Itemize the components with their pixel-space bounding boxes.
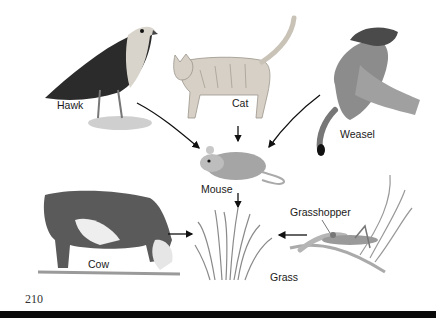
grass-illustration xyxy=(195,208,272,280)
grass-label: Grass xyxy=(270,271,298,283)
grasshopper-illustration xyxy=(290,175,412,272)
food-web-diagram: Hawk Cat Weasel Mouse Cow Grass Grasshop… xyxy=(0,0,436,318)
hawk-label: Hawk xyxy=(57,99,83,111)
cow-label: Cow xyxy=(88,258,109,270)
bottom-border xyxy=(0,311,436,318)
hawk-illustration xyxy=(45,27,158,130)
diagram-artwork xyxy=(0,0,436,318)
mouse-label: Mouse xyxy=(201,183,233,195)
mouse-illustration xyxy=(200,146,284,184)
cat-label: Cat xyxy=(232,97,248,109)
arrow-weasel-to-mouse xyxy=(269,95,320,147)
weasel-label: Weasel xyxy=(340,128,375,140)
page-number: 210 xyxy=(25,292,43,307)
grasshopper-label: Grasshopper xyxy=(290,206,351,218)
